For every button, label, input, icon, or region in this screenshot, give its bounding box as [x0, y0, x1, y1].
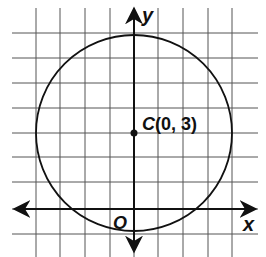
- center-coords: (0, 3): [155, 114, 197, 134]
- coordinate-plane-figure: y x O C(0, 3): [0, 0, 266, 257]
- y-axis-label: y: [141, 4, 154, 26]
- center-letter: C: [142, 114, 156, 134]
- origin-label: O: [113, 213, 127, 233]
- center-point: [131, 130, 138, 137]
- x-axis-label: x: [242, 213, 255, 235]
- center-label: C(0, 3): [142, 114, 197, 134]
